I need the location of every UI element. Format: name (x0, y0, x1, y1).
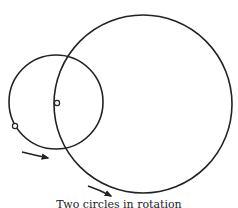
tracing-point (12, 123, 17, 128)
small-circle-rotation-arrow-icon (22, 152, 48, 158)
contact-point (54, 100, 59, 105)
big-circle-rotation-arrow-icon (88, 186, 111, 196)
two-circles-diagram (0, 0, 238, 208)
figure-caption: Two circles in rotation (0, 199, 238, 208)
big-circle (54, 15, 232, 193)
